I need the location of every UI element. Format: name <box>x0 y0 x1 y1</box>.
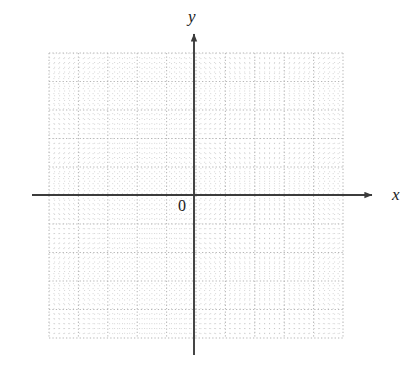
origin-label: 0 <box>178 198 186 214</box>
figure-canvas: y x 0 <box>0 0 412 376</box>
x-axis-label: x <box>392 186 400 203</box>
y-axis-label: y <box>188 8 196 25</box>
coordinate-grid-plot <box>0 0 412 376</box>
